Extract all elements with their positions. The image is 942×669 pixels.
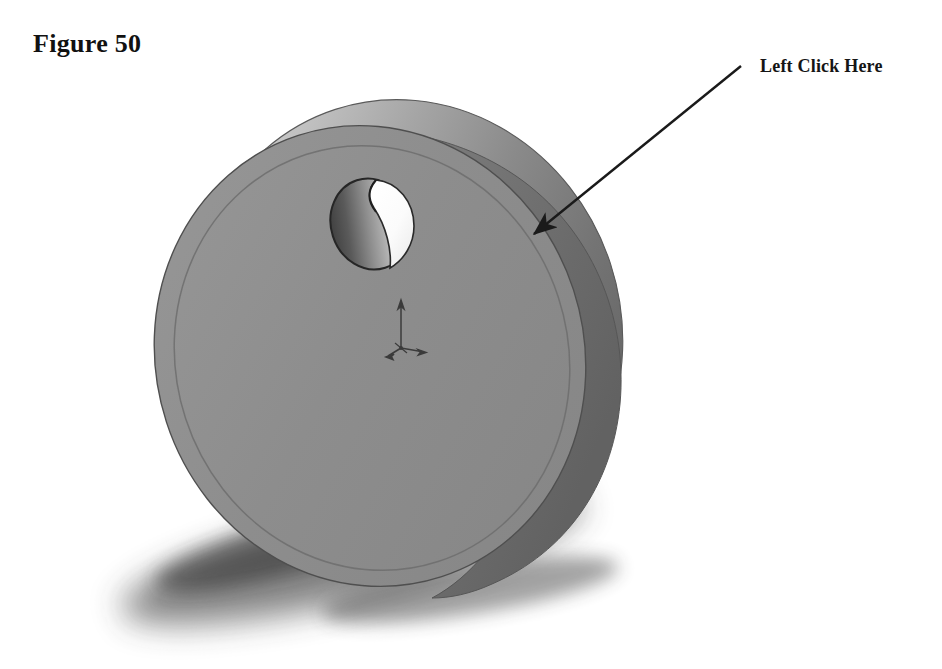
figure-illustration-canvas <box>0 0 942 669</box>
callout-label: Left Click Here <box>760 55 883 77</box>
callout-arrow <box>534 66 741 234</box>
disc-front-face[interactable] <box>95 69 645 643</box>
disc-model[interactable] <box>95 43 682 643</box>
figure-caption: Figure 50 <box>33 29 141 59</box>
